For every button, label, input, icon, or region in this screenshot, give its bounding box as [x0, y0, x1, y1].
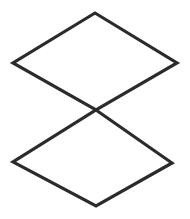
diamonds-drawing [0, 0, 190, 219]
figure-canvas [0, 0, 190, 219]
